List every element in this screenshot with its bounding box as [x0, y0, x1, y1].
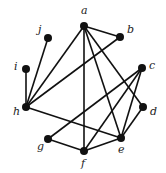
edge-f-e [84, 138, 121, 151]
edge-h-e [26, 107, 121, 138]
node-label-a: a [81, 4, 88, 17]
node-j [44, 34, 52, 42]
node-e [117, 134, 125, 142]
node-label-j: j [35, 23, 42, 36]
edge-c-e [121, 68, 142, 138]
node-label-h: h [13, 105, 20, 118]
edge-g-f [48, 139, 84, 151]
edge-a-h [26, 26, 84, 107]
node-label-f: f [80, 157, 87, 170]
edge-c-f [84, 68, 142, 151]
edge-j-h [26, 38, 48, 107]
node-label-g: g [37, 140, 44, 153]
edge-b-h [26, 37, 120, 107]
node-label-d: d [150, 105, 157, 118]
node-label-c: c [149, 59, 155, 72]
node-f [80, 147, 88, 155]
edge-a-e [84, 26, 121, 138]
node-label-e: e [118, 143, 125, 156]
edge-d-e [121, 107, 143, 138]
node-label-i: i [14, 60, 18, 73]
edge-a-b [84, 26, 120, 37]
node-c [138, 64, 146, 72]
node-i [22, 65, 30, 73]
node-g [44, 135, 52, 143]
node-h [22, 103, 30, 111]
edges-group [26, 26, 143, 151]
node-label-b: b [127, 23, 134, 36]
graph-diagram: abcdefghij [0, 0, 166, 173]
node-d [139, 103, 147, 111]
node-b [116, 33, 124, 41]
node-a [80, 22, 88, 30]
